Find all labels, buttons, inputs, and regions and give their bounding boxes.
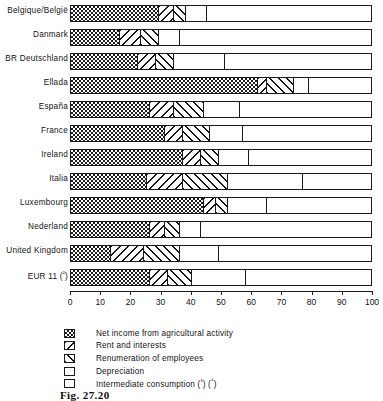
bar-segment [308, 78, 371, 93]
x-axis-tick [372, 291, 373, 295]
chart-row: Luxembourg [0, 195, 383, 219]
bar-segment [71, 54, 137, 69]
x-axis-tick-label: 50 [206, 297, 236, 307]
bar-segment [71, 150, 182, 165]
bar-segment [179, 246, 218, 261]
bar-segment [110, 246, 143, 261]
chart-row: Danmark [0, 27, 383, 51]
bar-segment [215, 198, 227, 213]
bar-segment [146, 174, 182, 189]
bar-segment [182, 150, 200, 165]
chart-row: España [0, 99, 383, 123]
legend-item: Renumeration of employees [64, 352, 364, 365]
bar-segment [239, 102, 371, 117]
category-label: España [0, 102, 68, 111]
bar-segment [164, 126, 182, 141]
legend-label: Net income from agricultural activity [96, 329, 233, 338]
chart-row: France [0, 123, 383, 147]
bar-segment [200, 150, 218, 165]
bar-segment [149, 102, 173, 117]
figure-caption: Fig. 27.20 [60, 389, 110, 401]
bar-segment [203, 102, 239, 117]
bar-segment [182, 126, 209, 141]
bar-segment [227, 174, 302, 189]
bar-segment [71, 246, 110, 261]
bar-segment [206, 6, 371, 21]
bar-segment [71, 30, 119, 45]
bar-segment [179, 30, 371, 45]
x-axis-tick-label: 90 [327, 297, 357, 307]
category-label: Italia [0, 174, 68, 183]
x-axis-tick-label: 40 [176, 297, 206, 307]
bar-segment [149, 222, 164, 237]
stacked-bar [70, 53, 372, 70]
x-axis-tick [342, 291, 343, 295]
bar-segment [224, 54, 371, 69]
bar-segment [302, 174, 371, 189]
x-axis-tick-label: 100 [357, 297, 383, 307]
bar-segment [71, 78, 257, 93]
stacked-bar [70, 77, 372, 94]
bar-segment [155, 54, 173, 69]
x-axis-tick-label: 30 [146, 297, 176, 307]
bar-segment [218, 150, 248, 165]
chart-row: EUR 11 (²) [0, 267, 383, 291]
x-axis-tick-label: 20 [115, 297, 145, 307]
x-axis-tick [100, 291, 101, 295]
stacked-bar [70, 5, 372, 22]
bar-segment [209, 126, 242, 141]
bar-segment [143, 246, 179, 261]
category-label: Ellada [0, 78, 68, 87]
bar-segment [242, 126, 371, 141]
bar-segment [71, 102, 149, 117]
stacked-bar [70, 269, 372, 286]
x-axis-tick-label: 60 [236, 297, 266, 307]
legend-label: Renumeration of employees [96, 354, 203, 363]
x-axis-tick [281, 291, 282, 295]
x-axis-tick-label: 10 [85, 297, 115, 307]
stacked-bar [70, 221, 372, 238]
chart-plot-area: Belgique/BelgiëDanmarkBR DeutschlandElla… [0, 3, 383, 291]
bar-segment [164, 222, 179, 237]
bar-segment [71, 198, 203, 213]
bar-segment [227, 198, 266, 213]
bar-segment [191, 270, 245, 285]
category-label: BR Deutschland [0, 54, 68, 63]
bar-segment [203, 198, 215, 213]
bar-segment [71, 174, 146, 189]
category-label: EUR 11 (²) [0, 270, 68, 281]
chart-row: Ellada [0, 75, 383, 99]
stacked-bar [70, 125, 372, 142]
legend-item: Rent and interests [64, 340, 364, 353]
bar-segment [173, 102, 203, 117]
bar-segment [293, 78, 308, 93]
x-axis: 0102030405060708090100 [70, 291, 372, 313]
chart-legend: Net income from agricultural activityRen… [64, 327, 364, 390]
legend-item: Depreciation [64, 365, 364, 378]
bar-segment [248, 150, 371, 165]
legend-swatch-dotted-icon [64, 367, 75, 376]
category-label: Nederland [0, 222, 68, 231]
category-label: Luxembourg [0, 198, 68, 207]
stacked-bar [70, 197, 372, 214]
chart-row: Belgique/België [0, 3, 383, 27]
bar-segment [140, 30, 158, 45]
stacked-bar [70, 173, 372, 190]
legend-swatch-checkerboard-icon [64, 329, 75, 338]
stacked-bar [70, 101, 372, 118]
category-label: United Kingdom [0, 246, 68, 255]
bar-segment [149, 270, 167, 285]
chart-row: United Kingdom [0, 243, 383, 267]
x-axis-tick [251, 291, 252, 295]
category-label: Danmark [0, 30, 68, 39]
bar-segment [182, 174, 227, 189]
bar-segment [200, 222, 371, 237]
bar-segment [179, 222, 200, 237]
legend-swatch-diagonal-back-icon [64, 341, 75, 350]
bar-segment [266, 78, 293, 93]
category-label: Belgique/België [0, 6, 68, 15]
bar-segment [185, 6, 206, 21]
legend-label: Depreciation [96, 367, 144, 376]
legend-swatch-diagonal-forward-icon [64, 354, 75, 363]
